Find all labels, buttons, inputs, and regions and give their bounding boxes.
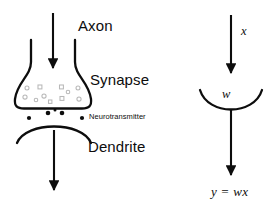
neurotransmitter-dots <box>27 109 84 121</box>
label-input-x: x <box>241 25 247 38</box>
diagram-canvas: Axon Synapse Neurotransmitter Dendrite x… <box>0 0 276 210</box>
label-dendrite: Dendrite <box>88 139 146 154</box>
label-output-equation: y = wx <box>211 185 248 198</box>
label-weight-w: w <box>222 88 230 101</box>
label-axon: Axon <box>78 18 113 33</box>
label-synapse: Synapse <box>90 72 149 87</box>
weight-node-arc <box>200 90 262 110</box>
label-neurotransmitter: Neurotransmitter <box>89 113 146 121</box>
vesicle-group <box>23 85 81 103</box>
diagram-vector-layer <box>0 0 276 210</box>
